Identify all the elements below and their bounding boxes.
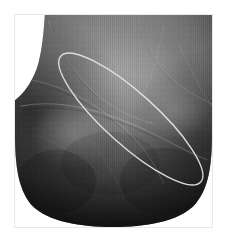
palmprint-scan-image [15,15,212,227]
scan-image-frame [14,14,213,228]
palm-silhouette [15,15,212,227]
palmprint-image-viewer [0,0,228,245]
